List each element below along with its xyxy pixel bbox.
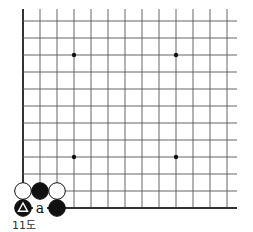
diagram-caption: 11도 bbox=[12, 216, 36, 232]
star-point bbox=[72, 53, 76, 57]
star-point bbox=[72, 155, 76, 159]
white-stone bbox=[15, 183, 32, 200]
black-stone bbox=[32, 183, 49, 200]
star-point bbox=[174, 155, 178, 159]
point-label: a bbox=[36, 200, 44, 216]
go-board: a bbox=[0, 0, 253, 232]
star-point bbox=[174, 53, 178, 57]
black-stone bbox=[49, 200, 66, 217]
white-stone bbox=[49, 183, 66, 200]
